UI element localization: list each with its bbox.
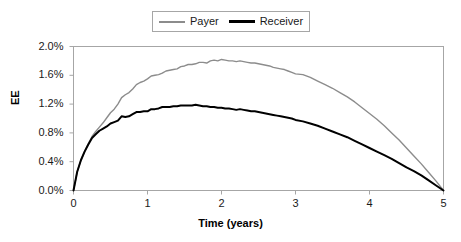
x-tick-label: 4 xyxy=(355,197,385,209)
plot-frame xyxy=(74,47,444,191)
y-tick-label: 0.4% xyxy=(24,155,64,167)
x-tick-label: 2 xyxy=(207,197,237,209)
x-tick-label: 5 xyxy=(429,197,459,209)
y-tick-label: 1.6% xyxy=(24,68,64,80)
chart-figure: Payer Receiver EE Time (years) 0.0%0.4%0… xyxy=(0,0,461,242)
y-tick-label: 2.0% xyxy=(24,40,64,52)
x-tick-label: 3 xyxy=(281,197,311,209)
x-tick-label: 1 xyxy=(133,197,163,209)
y-tick-label: 1.2% xyxy=(24,97,64,109)
series-line-payer xyxy=(74,59,444,190)
y-tick-label: 0.8% xyxy=(24,126,64,138)
series-line-receiver xyxy=(74,105,444,191)
x-tick-label: 0 xyxy=(59,197,89,209)
y-tick-label: 0.0% xyxy=(24,184,64,196)
